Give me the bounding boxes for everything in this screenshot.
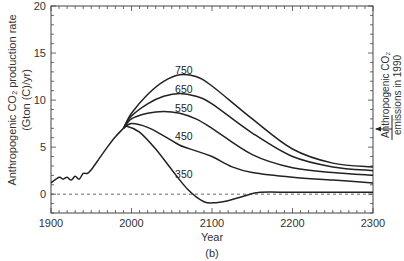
panel-label: (b) [205, 247, 218, 259]
scenario-650-curve [123, 94, 373, 171]
scenario-350-curve [123, 126, 373, 203]
plot-axes: 1900200021002200230005101520 [34, 0, 385, 229]
y-tick-label: 5 [40, 141, 46, 153]
emission-curves [51, 74, 373, 203]
scenario-550-curve [123, 111, 373, 175]
x-tick-label: 1900 [39, 217, 63, 229]
historical-emissions-curve [51, 128, 123, 183]
x-tick-label: 2000 [119, 217, 143, 229]
y-axis-title-line1: Anthropogenic CO₂ production rate [6, 14, 18, 185]
x-tick-label: 2300 [361, 217, 385, 229]
annotation-text-line1: Anthropogenic CO₂ [380, 52, 391, 138]
y-tick-label: 20 [34, 0, 46, 12]
x-axis-title: Year [201, 231, 224, 243]
plot-frame [51, 6, 373, 213]
y-tick-label: 0 [40, 188, 46, 200]
emissions-1990-annotation: Anthropogenic CO₂ emissions in 1990 [375, 52, 403, 140]
curve-labels: 750650550450350 [175, 64, 193, 180]
line-chart: 1900200021002200230005101520 75065055045… [0, 0, 404, 261]
curve-label-450: 450 [175, 130, 193, 142]
curve-label-650: 650 [175, 83, 193, 95]
x-tick-label: 2100 [200, 217, 224, 229]
y-tick-label: 10 [34, 94, 46, 106]
curve-label-750: 750 [175, 64, 193, 76]
y-tick-label: 15 [34, 47, 46, 59]
y-axis-title-line2: (Gton (C)/yr) [20, 69, 32, 131]
curve-label-550: 550 [175, 102, 193, 114]
curve-label-350: 350 [175, 168, 193, 180]
x-tick-label: 2200 [280, 217, 304, 229]
annotation-text-line2: emissions in 1990 [392, 55, 403, 135]
